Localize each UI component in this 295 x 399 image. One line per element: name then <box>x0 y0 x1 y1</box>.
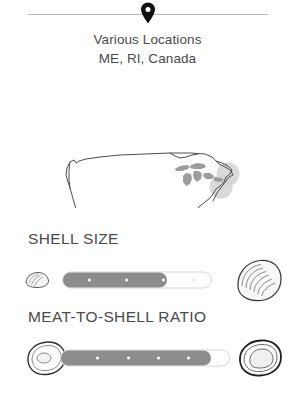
oyster-large-meat-icon <box>235 337 285 379</box>
us-map <box>0 78 295 208</box>
location-text: Various Locations ME, RI, Canada <box>0 30 295 68</box>
scale-row-shell-size <box>0 255 295 305</box>
slider-tick <box>157 357 160 360</box>
slider-meat-ratio[interactable] <box>60 350 230 367</box>
slider-fill-shell-size <box>63 273 167 288</box>
header: Various Locations ME, RI, Canada <box>0 0 295 78</box>
slider-shell-size[interactable] <box>62 272 212 289</box>
slider-tick <box>192 279 195 282</box>
location-line-secondary: ME, RI, Canada <box>0 49 295 68</box>
metric-shell-size: SHELL SIZE <box>0 228 295 305</box>
oyster-profile-card: Various Locations ME, RI, Canada <box>0 0 295 399</box>
large-clam-shell-icon <box>233 257 285 303</box>
slider-tick <box>127 357 130 360</box>
small-clam-shell-icon <box>24 271 50 289</box>
us-outline-shape <box>66 153 233 208</box>
metric-title-meat-ratio: MEAT-TO-SHELL RATIO <box>28 306 295 327</box>
metric-meat-to-shell-ratio: MEAT-TO-SHELL RATIO <box>0 306 295 383</box>
location-line-primary: Various Locations <box>0 30 295 49</box>
map-pin-icon <box>140 2 156 24</box>
metric-title-shell-size: SHELL SIZE <box>28 228 295 249</box>
scale-row-meat-ratio <box>0 333 295 383</box>
